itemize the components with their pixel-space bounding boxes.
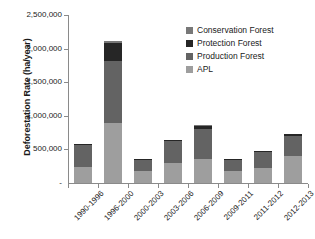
legend-item-label: Production Forest (197, 52, 264, 61)
bar-2000-2003[interactable] (134, 15, 152, 183)
y-tick-mark (64, 15, 68, 16)
legend-swatch-icon (186, 27, 193, 34)
x-tick-mark (98, 184, 99, 188)
x-tick-label-1996-2000: 1996-2000 (102, 189, 135, 222)
bar-segment-production-forest[interactable] (284, 136, 302, 156)
x-tick-label-2011-2012: 2011-2012 (252, 189, 285, 222)
x-tick-label-2006-2009: 2006-2009 (192, 189, 225, 222)
bar-segment-production-forest[interactable] (164, 141, 182, 163)
bar-segment-apl[interactable] (254, 168, 272, 183)
legend-swatch-icon (186, 53, 193, 60)
y-tick-mark (64, 149, 68, 150)
bar-segment-production-forest[interactable] (74, 145, 92, 167)
bar-segment-production-forest[interactable] (104, 61, 122, 122)
bar-segment-protection-forest[interactable] (164, 140, 182, 141)
bar-segment-apl[interactable] (104, 123, 122, 183)
legend-item-label: APL (197, 65, 213, 74)
bar-segment-apl[interactable] (74, 167, 92, 183)
bar-1990-1996[interactable] (74, 15, 92, 183)
bar-segment-production-forest[interactable] (254, 152, 272, 167)
legend-item-apl[interactable]: APL (186, 63, 314, 75)
x-tick-mark (218, 184, 219, 188)
y-tick-label: 2,000,000 (26, 45, 62, 53)
bar-segment-production-forest[interactable] (224, 160, 242, 171)
y-tick-label: 2,500,000 (26, 11, 62, 19)
bar-segment-protection-forest[interactable] (284, 134, 302, 136)
x-tick-label-1990-1996: 1990-1996 (72, 189, 105, 222)
legend-item-label: Protection Forest (197, 39, 262, 48)
y-tick-label: 500,000 (33, 145, 62, 153)
bar-segment-conservation-forest[interactable] (104, 41, 122, 43)
legend-item-protection-forest[interactable]: Protection Forest (186, 37, 314, 49)
y-tick-label-zero: - (59, 179, 62, 187)
y-tick-mark (64, 82, 68, 83)
x-tick-label-2012-2013: 2012-2013 (282, 189, 315, 222)
y-tick-label: 1,000,000 (26, 112, 62, 120)
bar-segment-production-forest[interactable] (134, 160, 152, 171)
legend-item-label: Conservation Forest (197, 26, 274, 35)
bar-segment-protection-forest[interactable] (254, 151, 272, 152)
x-tick-mark (68, 184, 69, 188)
y-tick-mark (64, 116, 68, 117)
y-tick-mark (64, 49, 68, 50)
legend-item-production-forest[interactable]: Production Forest (186, 50, 314, 62)
y-axis-line (68, 15, 69, 183)
bar-segment-conservation-forest[interactable] (194, 125, 212, 126)
bar-segment-apl[interactable] (164, 163, 182, 183)
bar-segment-apl[interactable] (224, 171, 242, 183)
bar-segment-apl[interactable] (284, 156, 302, 183)
x-tick-mark (188, 184, 189, 188)
x-tick-mark (308, 184, 309, 188)
bar-segment-production-forest[interactable] (194, 129, 212, 160)
chart-legend: Conservation ForestProtection ForestProd… (186, 24, 314, 76)
legend-swatch-icon (186, 66, 193, 73)
bar-2003-2006[interactable] (164, 15, 182, 183)
bar-1996-2000[interactable] (104, 15, 122, 183)
legend-swatch-icon (186, 40, 193, 47)
bar-segment-protection-forest[interactable] (104, 43, 122, 61)
x-tick-label-2009-2011: 2009-2011 (222, 189, 255, 222)
bar-segment-protection-forest[interactable] (194, 126, 212, 129)
x-tick-label-2003-2006: 2003-2006 (162, 189, 195, 222)
y-tick-label: 1,500,000 (26, 78, 62, 86)
bar-segment-apl[interactable] (134, 171, 152, 183)
x-tick-label-2000-2003: 2000-2003 (132, 189, 165, 222)
bar-segment-apl[interactable] (194, 159, 212, 183)
bar-segment-protection-forest[interactable] (134, 159, 152, 160)
x-tick-mark (158, 184, 159, 188)
x-tick-mark (128, 184, 129, 188)
y-axis-tick-labels: 500,0001,000,0001,500,0002,000,0002,500,… (0, 0, 66, 239)
deforestation-rate-chart: Deforestation Rate (ha/year) 500,0001,00… (0, 0, 315, 239)
legend-item-conservation-forest[interactable]: Conservation Forest (186, 24, 314, 36)
